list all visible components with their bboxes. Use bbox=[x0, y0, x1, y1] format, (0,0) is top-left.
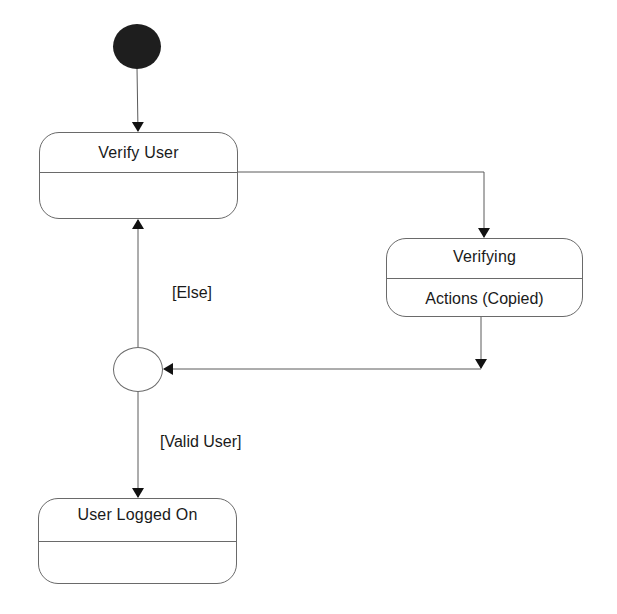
state-verify-user[interactable]: Verify User bbox=[39, 132, 238, 219]
state-divider bbox=[387, 278, 582, 279]
initial-node bbox=[113, 24, 161, 69]
guard-valid-user: [Valid User] bbox=[160, 433, 242, 451]
transition-initial-to-verify-user bbox=[137, 68, 138, 131]
decision-node bbox=[113, 347, 163, 392]
state-verifying[interactable]: Verifying Actions (Copied) bbox=[386, 238, 583, 317]
state-name: Verify User bbox=[40, 144, 237, 162]
state-user-logged-on[interactable]: User Logged On bbox=[38, 498, 237, 584]
guard-else: [Else] bbox=[172, 284, 212, 302]
state-name: Verifying bbox=[387, 248, 582, 266]
state-divider bbox=[40, 172, 237, 173]
state-name: User Logged On bbox=[39, 506, 236, 524]
transition-verify-user-to-verifying bbox=[238, 172, 484, 237]
state-actions: Actions (Copied) bbox=[387, 290, 582, 308]
state-divider bbox=[39, 541, 236, 542]
